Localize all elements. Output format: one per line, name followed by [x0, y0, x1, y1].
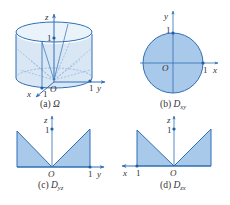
origin-label: O	[162, 63, 169, 73]
z-axis-label: z	[44, 12, 49, 22]
panel-a-solid: z 1 O 1 y x 1 (a) Ω	[16, 12, 105, 110]
z-axis-label: z	[43, 115, 48, 125]
caption-b: (b) Dxy	[160, 99, 186, 110]
origin-label: O	[170, 168, 177, 178]
x-axis-label: x	[212, 65, 217, 75]
caption-d: (d) Dzx	[160, 180, 186, 191]
origin-label: O	[50, 84, 57, 94]
panel-b-dxy: y 1 O 1 x (b) Dxy	[140, 11, 218, 110]
panel-d-dzx: z 1 O x 1 (d) Dzx	[122, 115, 211, 191]
y-tick-label: 1	[88, 169, 93, 179]
x-axis-label: x	[122, 168, 127, 178]
origin-label: O	[48, 169, 55, 179]
right-triangle	[174, 129, 211, 166]
z-tick-dot	[172, 127, 175, 130]
panel-c-dyz: z 1 O 1 y (c) Dyz	[17, 115, 104, 191]
y-axis-label: y	[96, 83, 101, 93]
z-tick-label: 1	[167, 125, 172, 135]
y-tick-label: 1	[89, 83, 94, 93]
y-tick-dot	[171, 31, 174, 34]
x-tick-label: 1	[136, 168, 141, 178]
x-tick-label: 1	[203, 65, 208, 75]
caption-a: (a) Ω	[40, 99, 60, 110]
z-axis-label: z	[166, 115, 171, 125]
z-tick-dot	[50, 127, 53, 130]
z-tick-label: 1	[47, 33, 52, 43]
z-tick-label: 1	[45, 125, 50, 135]
figure: z 1 O 1 y x 1 (a) Ω y 1 O 1 x (b) Dxy	[0, 0, 230, 205]
right-triangle	[52, 129, 90, 167]
z-tick-dot	[52, 36, 55, 39]
y-tick-label: 1	[166, 25, 171, 35]
left-triangle	[137, 130, 174, 166]
caption-c: (c) Dyz	[38, 180, 64, 191]
y-axis-label: y	[163, 11, 168, 21]
x-tick-label: 1	[43, 89, 48, 99]
left-triangle	[17, 131, 52, 167]
x-axis-label: x	[26, 89, 31, 99]
y-axis-label: y	[96, 169, 101, 179]
